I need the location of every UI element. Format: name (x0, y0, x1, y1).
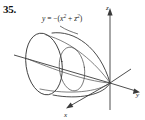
y-axis-line-positive (110, 83, 136, 91)
x-axis-arrowhead (66, 103, 73, 109)
x-axis-label: x (63, 111, 68, 119)
paraboloid-diagram: z y x (0, 0, 145, 120)
z-axis-label: z (105, 4, 109, 12)
z-axis (107, 8, 112, 110)
surface-lower-silhouette (53, 83, 110, 97)
x-axis-line-negative (110, 69, 131, 83)
paraboloid-surface (22, 31, 110, 97)
figure-container: 35. y = −(x2 + z2) (0, 0, 145, 120)
surface-ruling-line-upper (46, 35, 110, 83)
